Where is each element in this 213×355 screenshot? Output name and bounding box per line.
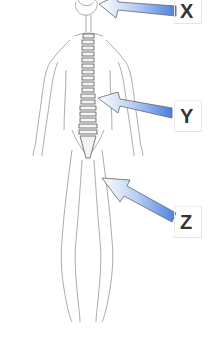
spinal-cord [79,34,97,158]
nervous-system-diagram: X Y Z [0,0,213,355]
brain [75,0,97,15]
label-x: X [180,0,193,23]
label-y: Y [180,105,193,128]
body-figure [0,0,213,355]
arrow-x [99,0,176,18]
arrow-z [102,178,176,222]
label-z: Z [180,211,192,234]
arrow-y [98,92,172,118]
